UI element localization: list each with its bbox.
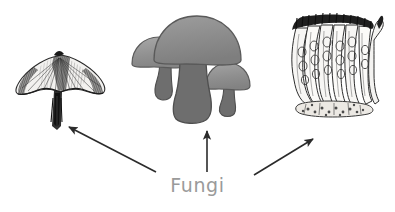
mushroom-stem <box>51 91 62 130</box>
gilled-mushroom-svg <box>8 38 116 134</box>
mushroom-cap <box>16 51 105 95</box>
fungi-diagram: Fungi <box>0 0 395 212</box>
mushroom-cluster-silhouette <box>124 4 276 128</box>
diagram-label-fungi: Fungi <box>0 174 395 196</box>
arrow-to-right-figure <box>254 139 313 175</box>
asci-cross-section-svg <box>282 4 386 128</box>
mushroom-cluster-svg <box>124 4 276 128</box>
ascus-cells <box>292 20 383 106</box>
asci-cross-section-engraving <box>282 4 386 128</box>
gilled-mushroom-engraving <box>8 38 116 134</box>
mushroom-right-small <box>206 63 250 117</box>
spore-base <box>296 101 373 117</box>
